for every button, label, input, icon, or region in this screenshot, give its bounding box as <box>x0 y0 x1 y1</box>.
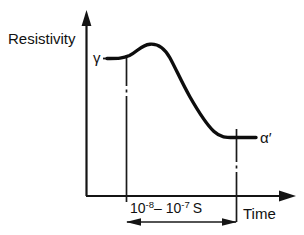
x-axis-label: Time <box>243 205 276 222</box>
y-axis-label: Resistivity <box>8 30 76 47</box>
resistivity-curve <box>107 44 256 137</box>
transformation-time-span-label: 10-8– 10-7S <box>130 199 202 216</box>
y-axis <box>82 10 92 196</box>
span-exponent-2: -7 <box>181 199 189 210</box>
x-axis <box>86 191 296 202</box>
span-exponent-1: -8 <box>146 199 154 210</box>
x-axis-arrow-icon <box>279 191 296 202</box>
transformation-span-arrow <box>126 218 237 226</box>
span-arrow-left-head-icon <box>126 218 141 226</box>
chart-canvas: Resistivity Time γ α′ 10-8– 10-7S <box>0 0 304 235</box>
phase-gamma-label: γ <box>93 49 101 66</box>
span-prefix: 10 <box>130 200 146 216</box>
y-axis-arrow-icon <box>82 10 92 26</box>
resistivity-vs-time-figure: Resistivity Time γ α′ 10-8– 10-7S <box>0 0 304 235</box>
phase-alpha-prime-group: α′ <box>260 129 272 146</box>
span-separator: – 10 <box>154 200 181 216</box>
span-unit: S <box>193 200 202 216</box>
span-text-group: 10-8– 10-7S <box>130 199 202 216</box>
phase-alpha-prime-label: α′ <box>260 129 272 146</box>
span-arrow-right-head-icon <box>222 218 237 226</box>
